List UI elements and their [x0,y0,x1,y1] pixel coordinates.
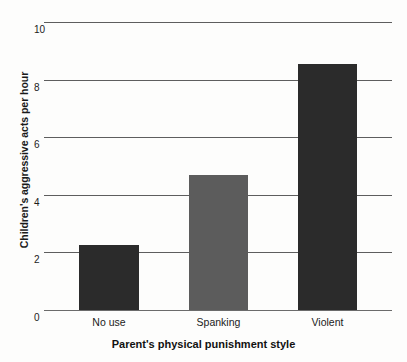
x-tick-label-no-use: No use [79,316,139,328]
x-tick-label-violent: Violent [298,316,357,328]
y-tick-label-10: 10 [34,24,54,35]
bar-spanking [189,175,248,310]
bar-chart: Children's aggressive acts per hour 1086… [0,0,407,362]
x-tick-label-spanking: Spanking [189,316,248,328]
y-tick-label-2: 2 [34,254,54,265]
y-axis-title: Children's aggressive acts per hour [13,0,35,320]
x-axis-title: Parent's physical punishment style [0,338,407,350]
gridline-0 [44,310,392,311]
y-tick-label-4: 4 [34,197,54,208]
y-axis-title-label: Children's aggressive acts per hour [18,72,30,248]
gridline-10 [44,22,392,23]
y-tick-label-6: 6 [34,139,54,150]
y-tick-label-8: 8 [34,82,54,93]
plot-area: 1086420 No useSpankingViolent [44,16,392,316]
bar-violent [298,64,357,310]
y-tick-label-0: 0 [34,312,54,323]
bar-no-use [79,245,139,310]
